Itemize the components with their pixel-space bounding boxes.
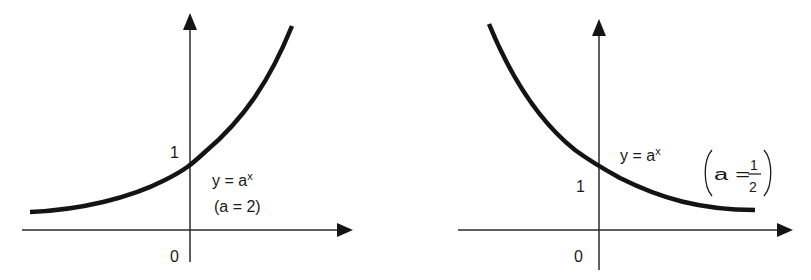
right-parameter-denominator: 2 <box>749 179 757 195</box>
right-x-axis-arrow-icon <box>777 223 793 237</box>
right-paren <box>764 150 771 196</box>
right-y-axis-arrow-icon <box>592 19 606 36</box>
left-y-tick-one: 1 <box>170 144 179 161</box>
right-graph-decay: 1 0 y = ax a = 1 2 <box>458 19 793 270</box>
left-origin-label: 0 <box>170 248 179 265</box>
left-parameter: (a = 2) <box>214 198 261 215</box>
left-x-axis-arrow-icon <box>337 223 353 237</box>
left-paren <box>705 150 712 196</box>
exponential-graphs: 1 0 y = ax (a = 2) 1 0 y = ax a = 1 2 <box>0 0 811 280</box>
right-parameter-numerator: 1 <box>750 157 758 173</box>
right-parameter: a = 1 2 <box>705 150 771 196</box>
right-origin-label: 0 <box>574 248 583 265</box>
left-graph-growth: 1 0 y = ax (a = 2) <box>22 13 353 265</box>
right-parameter-prefix: a = <box>714 166 750 183</box>
right-y-tick-one: 1 <box>576 178 585 195</box>
left-curve-a2 <box>30 26 292 212</box>
right-equation: y = ax <box>620 145 661 164</box>
left-y-axis-arrow-icon <box>183 13 197 30</box>
left-equation: y = ax <box>212 170 253 189</box>
